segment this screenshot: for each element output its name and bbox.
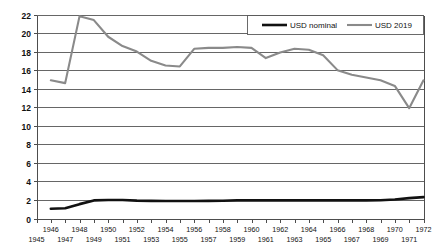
y-axis-tick-label: 6 [26, 159, 31, 169]
x-axis-labels-lower-group: 1945194719491951195319551957195919611963… [29, 235, 418, 244]
x-axis-tick-label: 1948 [72, 225, 88, 234]
x-axis-tick-label: 1970 [387, 225, 403, 234]
x-axis-tick-label: 1965 [315, 235, 331, 244]
x-axis-tick-label: 1963 [287, 235, 303, 244]
x-axis-tick-label: 1964 [301, 225, 317, 234]
x-axis-tick-label: 1958 [215, 225, 231, 234]
y-axis-ticks-group [34, 16, 37, 220]
legend-label: USD nominal [290, 21, 337, 30]
series-line-usd-nominal [51, 197, 424, 209]
x-axis-tick-label: 1971 [401, 235, 417, 244]
y-axis-tick-label: 14 [22, 85, 32, 95]
x-axis-tick-label: 1972 [416, 225, 432, 234]
x-axis-tick-label: 1953 [143, 235, 159, 244]
series-group [51, 16, 424, 208]
gridlines-group [37, 16, 424, 201]
x-axis-tick-label: 1952 [129, 225, 145, 234]
x-axis-tick-label: 1968 [358, 225, 374, 234]
x-axis-tick-label: 1962 [272, 225, 288, 234]
x-axis-tick-label: 1950 [100, 225, 116, 234]
y-axis-tick-label: 2 [26, 196, 31, 206]
x-axis-tick-label: 1957 [201, 235, 217, 244]
y-axis-tick-label: 12 [22, 103, 32, 113]
y-axis-tick-label: 22 [22, 11, 32, 21]
x-axis-tick-label: 1960 [244, 225, 260, 234]
y-axis-tick-label: 8 [26, 140, 31, 150]
y-axis-tick-label: 18 [22, 48, 32, 58]
x-axis-tick-label: 1961 [258, 235, 274, 244]
x-axis-tick-label: 1951 [115, 235, 131, 244]
legend-label: USD 2019 [375, 21, 412, 30]
line-chart: 0246810121416182022 19461948195019521954… [0, 0, 446, 252]
x-axis-tick-label: 1959 [229, 235, 245, 244]
axes-group [38, 16, 425, 220]
x-axis-tick-label: 1956 [186, 225, 202, 234]
x-axis-tick-label: 1947 [57, 235, 73, 244]
y-axis-tick-label: 20 [22, 29, 32, 39]
x-axis-tick-label: 1967 [344, 235, 360, 244]
y-axis-tick-label: 0 [26, 215, 31, 225]
y-axis-tick-label: 10 [22, 122, 32, 132]
y-axis-labels-group: 0246810121416182022 [22, 11, 32, 225]
y-axis-tick-label: 4 [26, 177, 31, 187]
x-axis-tick-label: 1945 [29, 235, 45, 244]
x-axis-tick-label: 1946 [43, 225, 59, 234]
x-axis-tick-label: 1969 [373, 235, 389, 244]
x-axis-labels-upper-group: 1946194819501952195419561958196019621964… [43, 225, 432, 234]
x-axis-tick-label: 1949 [86, 235, 102, 244]
x-axis-tick-label: 1966 [330, 225, 346, 234]
x-axis-tick-label: 1955 [172, 235, 188, 244]
chart-legend: USD nominalUSD 2019 [248, 16, 424, 35]
y-axis-tick-label: 16 [22, 66, 32, 76]
x-axis-tick-label: 1954 [158, 225, 174, 234]
chart-container: 0246810121416182022 19461948195019521954… [0, 0, 446, 252]
